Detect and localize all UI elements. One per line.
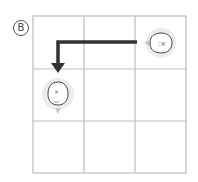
face-token-start-icon: :× bbox=[144, 28, 176, 58]
svg-text::×: :× bbox=[158, 40, 166, 48]
grid-diagram: :× × ‿ bbox=[0, 0, 198, 182]
path-arrow-icon bbox=[51, 42, 137, 73]
svg-text:×: × bbox=[54, 88, 59, 95]
hint-arrow-down-icon bbox=[55, 108, 61, 114]
face-token-end-icon: × ‿ bbox=[42, 78, 74, 114]
